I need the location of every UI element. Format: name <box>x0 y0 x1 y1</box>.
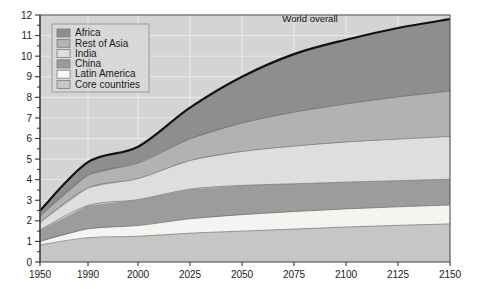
y-tick-label: 5 <box>26 154 32 165</box>
x-tick-label: 2075 <box>283 269 306 280</box>
x-tick-label: 2125 <box>387 269 410 280</box>
legend: AfricaRest of AsiaIndiaChinaLatin Americ… <box>52 24 149 92</box>
y-tick-label: 7 <box>26 113 32 124</box>
legend-swatch-rest-of-asia <box>57 39 70 47</box>
legend-swatch-africa <box>57 29 70 37</box>
x-tick-label: 2025 <box>179 269 202 280</box>
x-tick-label: 1990 <box>77 269 100 280</box>
y-tick-label: 2 <box>26 215 32 226</box>
y-tick-label: 10 <box>21 51 33 62</box>
x-axis: 195019902000202520502075210021252150 <box>29 262 462 280</box>
x-tick-label: 2050 <box>231 269 254 280</box>
y-tick-label: 4 <box>26 174 32 185</box>
legend-swatch-latin-america <box>57 70 70 78</box>
legend-label-core-countries: Core countries <box>75 79 140 90</box>
y-tick-label: 8 <box>26 92 32 103</box>
x-tick-label: 1950 <box>29 269 52 280</box>
x-tick-label: 2150 <box>439 269 462 280</box>
annotation-world-overall: World overall <box>282 13 337 24</box>
y-tick-label: 12 <box>21 10 33 21</box>
legend-swatch-core-countries <box>57 81 70 89</box>
y-axis: 0123456789101112 <box>21 10 40 268</box>
chart-figure: 0123456789101112195019902000202520502075… <box>0 0 482 289</box>
y-tick-label: 6 <box>26 133 32 144</box>
x-tick-label: 2100 <box>335 269 358 280</box>
y-tick-label: 11 <box>22 30 33 41</box>
legend-swatch-china <box>57 60 70 68</box>
stacked-area-chart: 0123456789101112195019902000202520502075… <box>0 0 482 289</box>
y-tick-label: 3 <box>26 195 32 206</box>
x-tick-label: 2000 <box>127 269 150 280</box>
y-tick-label: 9 <box>26 71 32 82</box>
y-tick-label: 0 <box>26 257 32 268</box>
y-tick-label: 1 <box>26 236 32 247</box>
legend-swatch-india <box>57 50 70 58</box>
